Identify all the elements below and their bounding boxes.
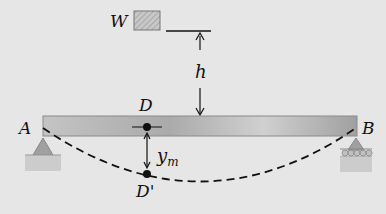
beam-impact-diagram: W h A B D D' ym: [0, 0, 386, 214]
beam: [43, 116, 357, 136]
deflection-label: ym: [156, 145, 179, 169]
support-b-label: B: [361, 118, 375, 138]
weight-label: W: [110, 11, 129, 31]
height-label: h: [195, 61, 207, 82]
point-d-marker: [143, 123, 151, 131]
roller-support-b: [340, 138, 372, 172]
point-d-prime-marker: [143, 170, 151, 178]
deflection-dimension-arrow: [144, 133, 150, 168]
point-d-prime-label: D': [135, 181, 154, 201]
point-d-label: D: [138, 95, 153, 115]
pin-support-a: [25, 138, 61, 171]
weight-block: [134, 11, 160, 30]
support-a-label: A: [17, 118, 31, 138]
